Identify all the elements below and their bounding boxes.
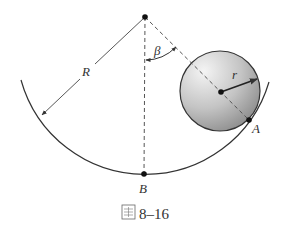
top-center-point (142, 14, 148, 20)
sphere-center-point (218, 89, 224, 95)
point-b-label: B (139, 181, 147, 196)
caption-number: 8–16 (139, 206, 170, 222)
angle-beta-label: β (153, 43, 161, 58)
contact-point-a (246, 117, 252, 123)
big-radius-line-upper (95, 17, 145, 64)
big-radius-label: R (81, 64, 90, 79)
big-radius-line-lower (42, 79, 80, 115)
vertical-dashed-line (144, 17, 145, 174)
bottom-point-b (141, 171, 147, 177)
angle-beta-arc (146, 47, 176, 60)
sphere-in-bowl-diagram: R β r A B 圖 8–16 (0, 0, 283, 226)
point-a-label: A (251, 121, 260, 136)
